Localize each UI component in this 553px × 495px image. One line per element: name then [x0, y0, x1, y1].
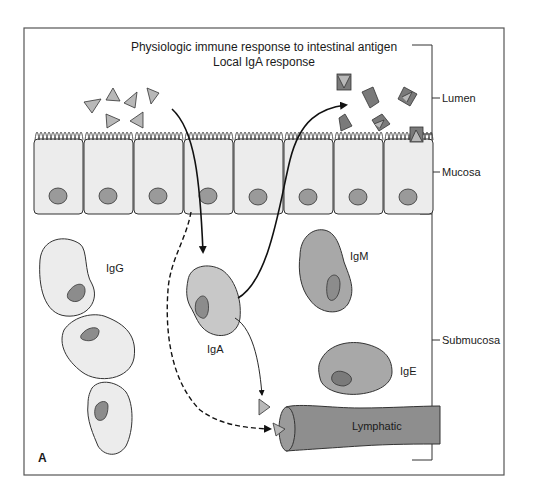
- label-submucosa: Submucosa: [442, 334, 500, 346]
- diagram-canvas: Physiologic immune response to intestina…: [0, 0, 553, 495]
- cell-ige: [319, 343, 392, 395]
- label-lymphatic: Lymphatic: [352, 420, 402, 432]
- label-igm: IgM: [350, 250, 368, 262]
- diagram-svg: [0, 0, 553, 495]
- figure-subtitle: Local IgA response: [24, 55, 504, 69]
- label-lumen: Lumen: [442, 92, 476, 104]
- figure-title: Physiologic immune response to intestina…: [24, 40, 504, 54]
- panel-label: A: [38, 451, 47, 465]
- label-iga: IgA: [207, 343, 224, 355]
- label-ige: IgE: [400, 365, 417, 377]
- label-igg: IgG: [106, 262, 124, 274]
- label-mucosa: Mucosa: [442, 166, 481, 178]
- epithelium: [34, 132, 433, 214]
